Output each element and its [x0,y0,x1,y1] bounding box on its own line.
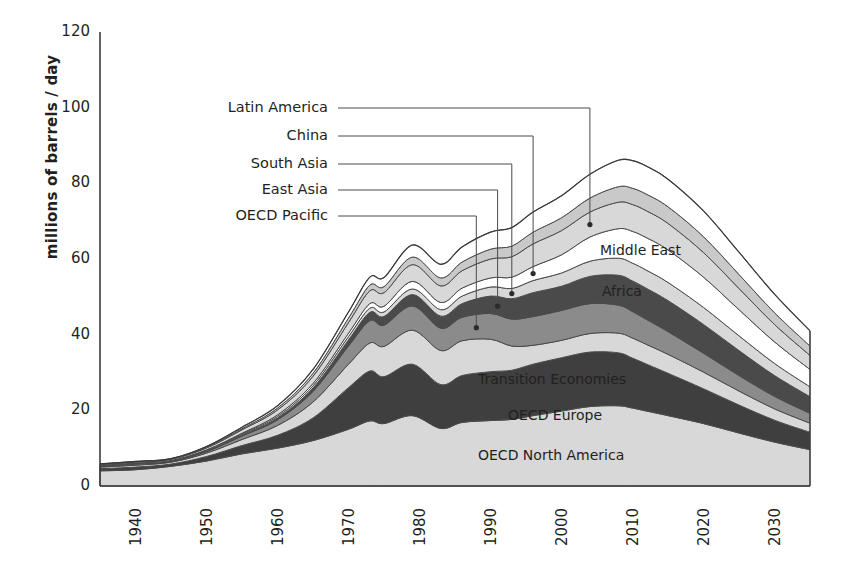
leader-endpoint-dot [509,291,514,296]
series-inline-label: Africa [602,283,642,299]
series-callout-label: China [0,127,328,143]
series-callout-label: South Asia [0,155,328,171]
series-callout-label: East Asia [0,181,328,197]
leader-endpoint-dot [587,222,592,227]
series-inline-label: Transition Economies [478,371,626,387]
leader-endpoint-dot [495,304,500,309]
series-callout-label: Latin America [0,99,328,115]
chart-container: millions of barrels / day 02040608010012… [0,0,842,565]
series-inline-label: OECD Europe [508,407,602,423]
leader-endpoint-dot [531,271,536,276]
series-callout-label: OECD Pacific [0,207,328,223]
stacked-area-plot [0,0,842,565]
series-inline-label: OECD North America [478,447,624,463]
series-inline-label: Middle East [600,242,681,258]
leader-endpoint-dot [474,325,479,330]
